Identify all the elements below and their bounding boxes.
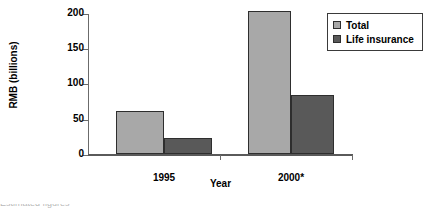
bar-life-insurance-2000 bbox=[291, 95, 334, 154]
legend-item-total: Total bbox=[333, 18, 414, 32]
y-tick-label-0: 0 bbox=[44, 148, 84, 159]
y-axis-line bbox=[88, 14, 89, 155]
x-tick-end bbox=[352, 155, 353, 160]
bar-chart-figure: RMB (billions) 200 150 100 50 0 bbox=[0, 0, 435, 215]
y-tick-label-50: 50 bbox=[44, 113, 84, 124]
bar-total-1995 bbox=[116, 111, 164, 154]
y-axis-title: RMB (billions) bbox=[0, 0, 88, 150]
legend-item-life-insurance: Life insurance bbox=[333, 32, 414, 46]
legend-swatch-life-insurance-icon bbox=[333, 35, 341, 43]
x-tick-mid bbox=[220, 155, 221, 160]
y-tick-label-100: 100 bbox=[44, 77, 84, 88]
bar-total-2000 bbox=[248, 11, 291, 154]
chart-legend: Total Life insurance bbox=[327, 13, 423, 51]
legend-label-life-insurance: Life insurance bbox=[346, 34, 414, 45]
y-tick-label-150: 150 bbox=[44, 42, 84, 53]
footnote-clipped: Estimated figures bbox=[0, 204, 120, 215]
legend-swatch-total-icon bbox=[333, 21, 341, 29]
legend-label-total: Total bbox=[346, 20, 369, 31]
bar-life-insurance-1995 bbox=[164, 138, 212, 154]
x-axis-title: Year bbox=[88, 178, 353, 189]
plot-area: 200 150 100 50 0 1995 2000* bbox=[88, 14, 353, 155]
y-tick-label-200: 200 bbox=[44, 7, 84, 18]
footnote-text: Estimated figures bbox=[0, 204, 120, 208]
